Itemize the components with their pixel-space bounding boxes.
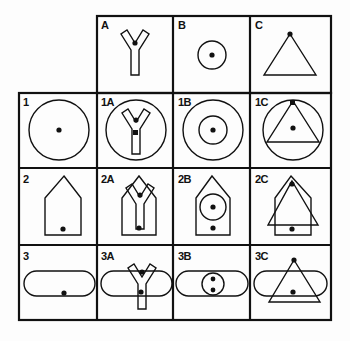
cell-label: C — [255, 19, 263, 31]
header-cell-c: C — [255, 19, 316, 75]
cell-1a: 1A — [101, 96, 166, 160]
cell-3c: 3C — [254, 250, 327, 302]
cell-label: 2B — [178, 173, 192, 185]
row-cell-2: 2 — [23, 173, 81, 235]
cell-label: A — [101, 19, 109, 31]
house-icon — [45, 176, 81, 235]
cell-2a: 2A — [101, 173, 156, 235]
cell-label: 2C — [255, 173, 269, 185]
rounded-bar-icon — [24, 271, 95, 296]
puzzle-grid: A B C 1 1A 1B 1C 2 — [0, 0, 350, 341]
cell-2c: 2C — [255, 173, 318, 235]
cell-label: 2A — [101, 173, 115, 185]
header-cell-b: B — [178, 19, 226, 69]
triangle-icon — [264, 34, 316, 75]
cell-1b: 1B — [178, 96, 243, 160]
cell-label: 3C — [255, 250, 269, 262]
cell-label: B — [178, 19, 186, 31]
row-cell-1: 1 — [23, 96, 89, 160]
cell-label: 1A — [101, 96, 115, 108]
cell-label: 3B — [178, 250, 192, 262]
grid-lines — [19, 16, 331, 320]
cell-3b: 3B — [176, 250, 248, 296]
cell-label: 1 — [23, 96, 29, 108]
y-shape-icon — [121, 30, 149, 75]
cell-2b: 2B — [178, 173, 230, 235]
cell-label: 1B — [178, 96, 192, 108]
cell-label: 2 — [23, 173, 29, 185]
cell-label: 3 — [23, 250, 29, 262]
cell-label: 3A — [101, 250, 115, 262]
cell-label: 1C — [255, 96, 269, 108]
cell-3a: 3A — [101, 250, 172, 309]
cell-1c: 1C — [255, 96, 323, 160]
header-cell-a: A — [101, 19, 149, 75]
row-cell-3: 3 — [23, 250, 95, 296]
